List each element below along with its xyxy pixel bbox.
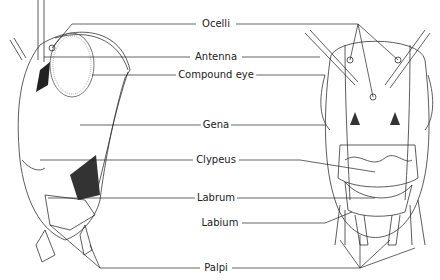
label-compound-eye: Compound eye — [176, 69, 256, 81]
insect-head-diagram: Ocelli Antenna Compound eye Gena Clypeus… — [0, 0, 440, 280]
label-ocelli: Ocelli — [200, 18, 232, 30]
label-antenna: Antenna — [193, 51, 239, 63]
label-palpi: Palpi — [202, 262, 230, 274]
label-labium: Labium — [200, 217, 241, 229]
shaded-mouthpart — [70, 155, 100, 200]
label-gena: Gena — [201, 119, 231, 131]
diagram-drawing — [0, 0, 440, 280]
frontal-head-view — [305, 30, 433, 245]
lateral-head-view — [10, 0, 130, 262]
label-clypeus: Clypeus — [194, 154, 238, 166]
label-labrum: Labrum — [195, 192, 237, 204]
